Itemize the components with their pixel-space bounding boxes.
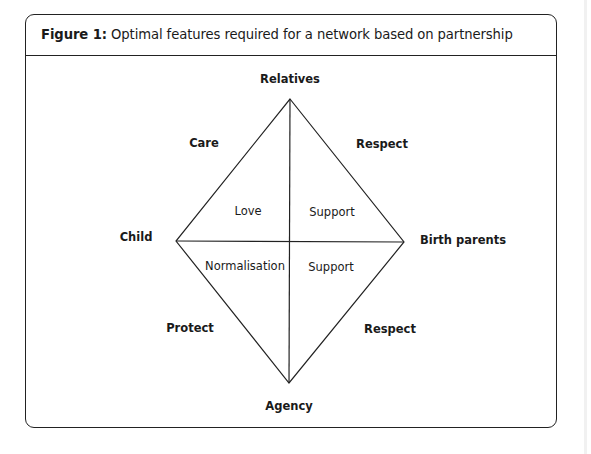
vertex-label-child: Child bbox=[120, 230, 153, 244]
vertex-label-agency: Agency bbox=[265, 399, 312, 413]
quadrant-label-support-upper: Support bbox=[309, 205, 354, 219]
quadrant-label-love: Love bbox=[234, 204, 261, 218]
vertex-label-relatives: Relatives bbox=[260, 72, 320, 86]
edge-label-care: Care bbox=[189, 136, 219, 150]
diamond-diagram bbox=[0, 0, 591, 454]
quadrant-label-normalisation: Normalisation bbox=[205, 259, 285, 273]
vertex-label-birth-parents: Birth parents bbox=[420, 233, 506, 247]
edge-label-respect-bottom: Respect bbox=[364, 322, 416, 336]
horizontal-axis bbox=[176, 241, 404, 242]
edge-label-respect-top: Respect bbox=[356, 137, 408, 151]
quadrant-label-support-lower: Support bbox=[308, 260, 353, 274]
edge-label-protect: Protect bbox=[166, 321, 214, 335]
